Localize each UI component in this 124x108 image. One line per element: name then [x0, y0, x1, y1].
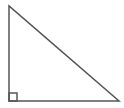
triangle: [9, 6, 119, 101]
right-angle-marker: [9, 93, 17, 101]
right-triangle-diagram: [0, 0, 124, 108]
